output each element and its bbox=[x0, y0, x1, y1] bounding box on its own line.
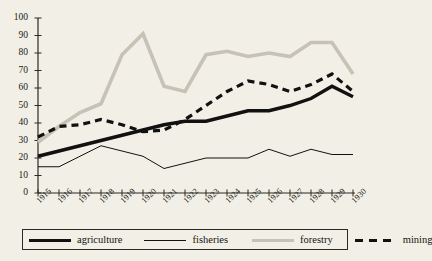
fisheries-line-icon bbox=[144, 234, 186, 246]
source-note bbox=[6, 256, 364, 261]
chart-legend: agriculture fisheries forestry mining bbox=[22, 229, 348, 250]
legend-label-mining: mining bbox=[403, 234, 432, 245]
series-line-agriculture bbox=[38, 86, 353, 156]
mining-line-icon bbox=[355, 234, 397, 246]
legend-label-forestry: forestry bbox=[300, 234, 333, 245]
legend-item-fisheries[interactable]: fisheries bbox=[144, 234, 228, 246]
agriculture-line-icon bbox=[29, 234, 71, 246]
series-line-forestry bbox=[38, 34, 353, 143]
legend-item-agriculture[interactable]: agriculture bbox=[29, 234, 122, 246]
legend-item-mining[interactable]: mining bbox=[355, 234, 432, 246]
series-line-mining bbox=[38, 74, 353, 137]
legend-label-agriculture: agriculture bbox=[77, 234, 122, 245]
forestry-line-icon bbox=[252, 234, 294, 246]
legend-label-fisheries: fisheries bbox=[192, 234, 228, 245]
legend-item-forestry[interactable]: forestry bbox=[252, 234, 333, 246]
series-line-fisheries bbox=[38, 146, 353, 169]
